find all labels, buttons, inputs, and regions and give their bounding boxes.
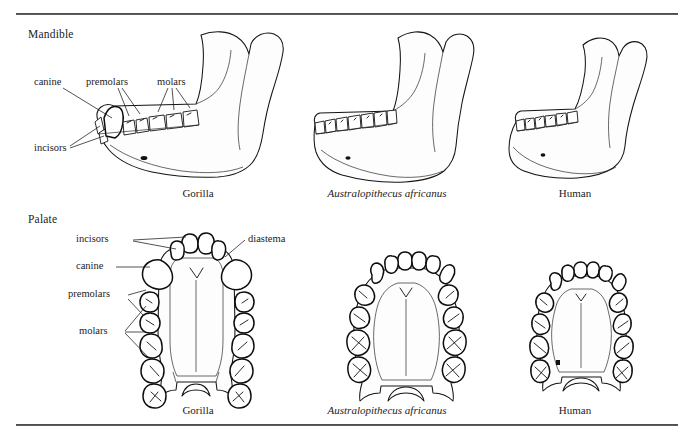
- gorilla-palate-drawing: [140, 233, 254, 408]
- human-palate-right-cheek-teeth: [609, 293, 633, 383]
- gorilla-palate-incisors: [170, 233, 225, 260]
- mandible-leader-lines: [63, 88, 190, 148]
- leader-palate-premolar-2: [128, 299, 144, 316]
- caption-mandible-gorilla: Gorilla: [138, 187, 258, 199]
- leader-premolar-2: [122, 88, 140, 114]
- leader-palate-premolar-1: [128, 290, 146, 295]
- australopithecus-palate-right-cheek-teeth: [438, 285, 466, 382]
- gorilla-palate-canines: [142, 260, 251, 290]
- annotation-incisors-mandible: incisors: [34, 142, 67, 153]
- annotation-canine-mandible: canine: [34, 76, 61, 87]
- australopithecus-palate-left-cheek-teeth: [347, 285, 375, 382]
- australopithecus-palate-drawing: [347, 252, 466, 401]
- human-lower-teeth: [516, 111, 578, 131]
- illustration-layer: [0, 0, 692, 439]
- section-header-palate: Palate: [28, 213, 57, 225]
- leader-palate-incisor-1: [133, 237, 186, 240]
- australopithecus-mandible-drawing: [314, 32, 474, 182]
- human-palate-left-cheek-teeth: [530, 293, 554, 383]
- gorilla-mandible-drawing: [95, 32, 283, 177]
- gorilla-palate-right-cheek-teeth: [228, 292, 254, 408]
- leader-premolar-1: [118, 88, 129, 116]
- annotation-diastema-palate: diastema: [248, 233, 285, 244]
- caption-mandible-human: Human: [515, 187, 635, 199]
- gorilla-lower-teeth: [95, 106, 199, 144]
- leader-molar-2: [172, 88, 174, 110]
- annotation-molars-mandible: molars: [157, 76, 186, 87]
- top-horizontal-rule: [16, 13, 678, 15]
- australopithecus-palate-front-teeth: [371, 252, 455, 284]
- human-mental-foramen: [541, 153, 546, 156]
- palate-leader-lines: [116, 237, 245, 357]
- leader-palate-incisor-2: [133, 241, 176, 249]
- bottom-horizontal-rule: [16, 424, 678, 426]
- leader-diastema: [225, 240, 245, 257]
- section-header-mandible: Mandible: [28, 28, 74, 40]
- annotation-molars-palate: molars: [79, 325, 108, 336]
- human-palate-front-teeth: [550, 262, 626, 291]
- human-palate-foramen: [556, 360, 560, 365]
- annotation-premolars-palate: premolars: [68, 288, 110, 299]
- human-palate-drawing: [530, 262, 633, 391]
- figure-root: Mandible Palate: [0, 0, 692, 439]
- caption-mandible-australopithecus: Australopithecus africanus: [307, 187, 467, 199]
- caption-palate-gorilla: Gorilla: [138, 404, 258, 416]
- annotation-premolars-mandible: premolars: [86, 76, 128, 87]
- leader-palate-molar-1: [125, 306, 146, 331]
- human-mandible-drawing: [509, 38, 647, 178]
- caption-palate-human: Human: [515, 404, 635, 416]
- leader-molar-1: [158, 88, 168, 112]
- annotation-canine-palate: canine: [76, 260, 103, 271]
- annotation-incisors-palate: incisors: [76, 233, 109, 244]
- leader-incisor-1: [70, 126, 100, 146]
- gorilla-palate-left-cheek-teeth: [140, 292, 166, 408]
- leader-molar-3: [176, 88, 190, 108]
- australopithecus-lower-teeth: [315, 110, 397, 134]
- leader-palate-molar-3: [125, 333, 148, 357]
- gorilla-mental-foramen: [141, 156, 148, 160]
- australopithecus-mental-foramen: [345, 156, 350, 160]
- leader-incisor-2: [70, 136, 104, 148]
- caption-palate-australopithecus: Australopithecus africanus: [307, 404, 467, 416]
- leader-canine: [63, 88, 112, 118]
